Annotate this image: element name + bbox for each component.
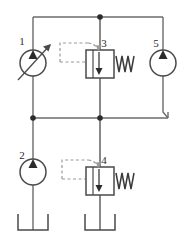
pilot-line-valve-3-dashed bbox=[60, 43, 88, 62]
pilot-line-valve-4-dashed bbox=[62, 160, 88, 179]
valve-4-body-box bbox=[86, 167, 114, 195]
junction-mid-center bbox=[97, 115, 103, 121]
hydraulic-circuit-diagram: 3 4 1 2 5 bbox=[0, 0, 187, 238]
spring-3-zigzag-icon bbox=[116, 56, 134, 72]
component-label-1: 1 bbox=[19, 35, 25, 47]
component-label-2: 2 bbox=[19, 149, 25, 161]
circuit-svg-canvas: 3 4 1 2 5 bbox=[0, 0, 187, 238]
junction-top-center bbox=[97, 14, 103, 20]
component-label-5: 5 bbox=[153, 37, 159, 49]
junction-mid-left bbox=[30, 115, 36, 121]
spring-4-zigzag-icon bbox=[116, 173, 134, 189]
pump-1-variability-arrow-head bbox=[43, 44, 51, 52]
line-motor5-to-mid bbox=[163, 76, 168, 118]
component-label-4: 4 bbox=[101, 154, 107, 166]
component-1-variable-pump[interactable] bbox=[18, 44, 51, 80]
component-2-pump[interactable] bbox=[20, 159, 46, 185]
valve-3-body-box bbox=[86, 50, 114, 78]
component-label-3: 3 bbox=[101, 37, 107, 49]
component-4-relief-valve[interactable]: 4 bbox=[62, 154, 134, 195]
component-5-motor[interactable] bbox=[150, 50, 176, 76]
component-3-relief-valve[interactable]: 3 bbox=[60, 37, 134, 78]
